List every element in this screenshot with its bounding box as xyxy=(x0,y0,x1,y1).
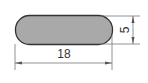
bar-profile-shape xyxy=(16,16,113,45)
width-dimension-label: 18 xyxy=(57,47,71,61)
arrow-up-icon xyxy=(132,16,135,23)
arrow-left-icon xyxy=(15,62,22,65)
height-dimension-label: 5 xyxy=(118,26,132,33)
technical-drawing: 18 5 xyxy=(0,0,148,83)
arrow-right-icon xyxy=(105,62,112,65)
arrow-down-icon xyxy=(132,37,135,44)
